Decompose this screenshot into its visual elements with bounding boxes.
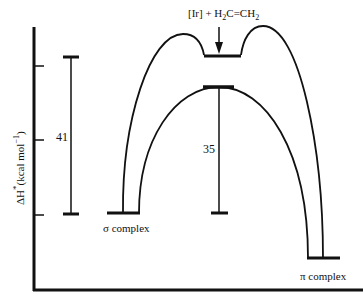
sigma-complex-label: σ complex <box>103 222 150 234</box>
ir-ethylene-label: [Ir] + H2C=CH2 <box>188 7 259 22</box>
barrier-35-label: 35 <box>203 142 215 156</box>
axes <box>33 27 363 291</box>
energy-diagram: ΔH*(kcal mol−1) 41 [Ir] + H2C=CH2 35 σ c… <box>0 0 363 301</box>
direct-path-curve <box>139 87 308 258</box>
y-axis-label: ΔH*(kcal mol−1) <box>11 131 27 205</box>
pi-complex-label: π complex <box>300 270 347 282</box>
down-arrow-icon <box>215 27 223 54</box>
barrier-41-label: 41 <box>56 130 68 144</box>
